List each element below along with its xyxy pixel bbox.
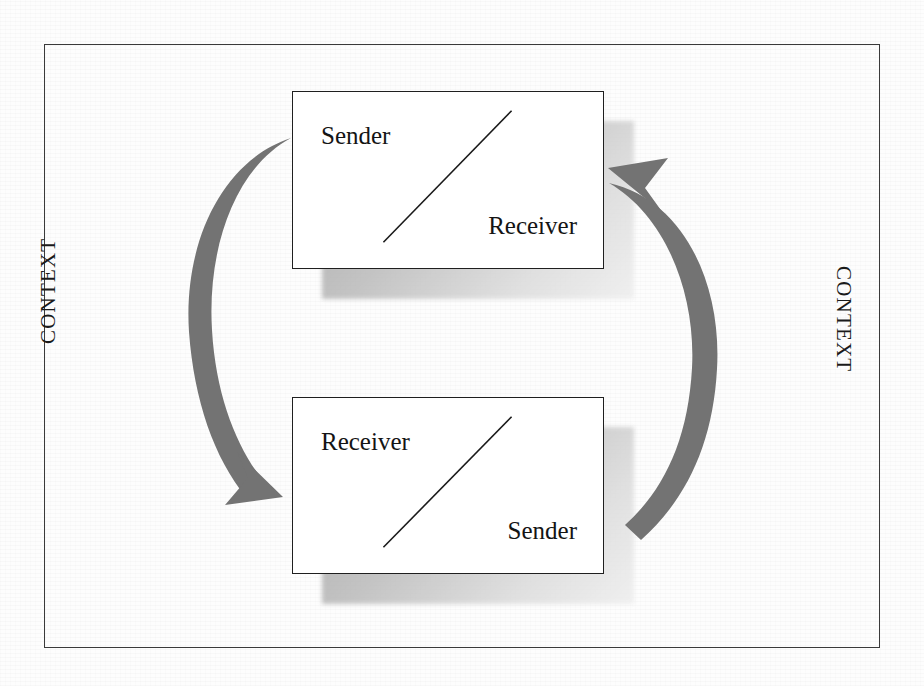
diagonal-divider-icon bbox=[293, 92, 603, 268]
diagonal-divider-icon bbox=[293, 398, 603, 573]
role-label-sender-top: Sender bbox=[321, 122, 390, 150]
context-label-right: CONTEXT bbox=[831, 266, 856, 372]
diagram-canvas: CONTEXT CONTEXT Sender Receiver Receiver… bbox=[0, 0, 924, 686]
message-box-top[interactable]: Sender Receiver bbox=[292, 91, 604, 269]
role-label-sender-bottom: Sender bbox=[508, 517, 577, 545]
role-label-receiver-bottom: Receiver bbox=[321, 428, 410, 456]
context-label-left: CONTEXT bbox=[36, 238, 61, 344]
message-box-bottom[interactable]: Receiver Sender bbox=[292, 397, 604, 574]
role-label-receiver-top: Receiver bbox=[488, 212, 577, 240]
